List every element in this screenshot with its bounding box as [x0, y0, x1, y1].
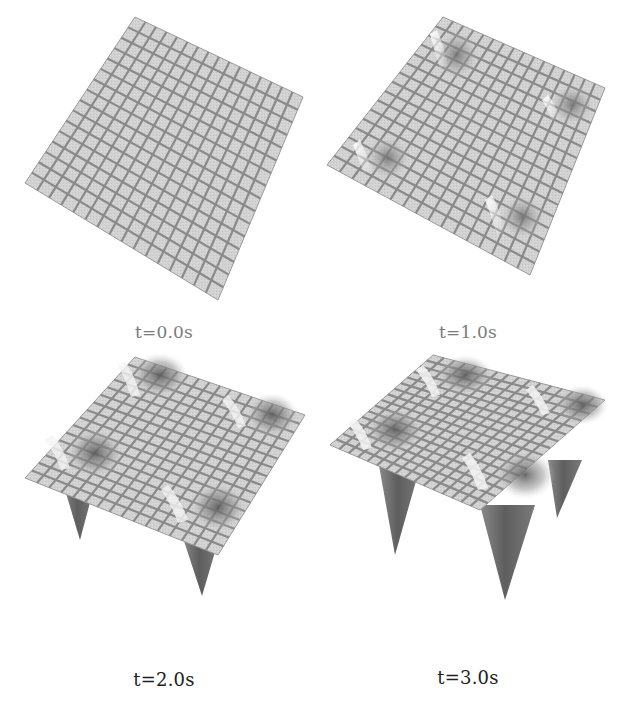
- dimpled-surface-mesh: [0, 0, 631, 320]
- spike-bottom: [480, 505, 535, 600]
- panel-caption-t3: t=3.0s: [430, 667, 506, 688]
- spiked-surface-mesh: [320, 340, 631, 640]
- surface-plot-t1: [0, 0, 631, 320]
- surface-plot-t3: [320, 340, 631, 640]
- panel-caption-t1: t=1.0s: [432, 322, 504, 342]
- panel-caption-t2: t=2.0s: [126, 669, 202, 690]
- panel-caption-t0: t=0.0s: [128, 322, 200, 342]
- depressed-surface-mesh: [0, 340, 320, 640]
- surface-plot-t2: [0, 340, 320, 640]
